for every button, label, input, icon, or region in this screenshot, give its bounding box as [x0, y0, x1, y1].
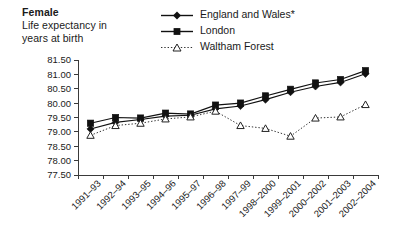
chart-container: Female Life expectancy in years at birth…: [0, 0, 403, 227]
y-axis-tick-label: 78.50: [47, 141, 71, 152]
y-axis-tick-label: 79.50: [47, 112, 71, 123]
data-point-marker: [87, 132, 94, 139]
data-point-marker: [87, 120, 93, 126]
y-axis-tick-label: 81.00: [47, 69, 71, 80]
data-point-marker: [237, 122, 244, 129]
data-point-marker: [237, 100, 243, 106]
y-axis-tick-label: 78.00: [47, 155, 71, 166]
y-axis-tick-label: 80.00: [47, 98, 71, 109]
series-open-triangle: [87, 101, 369, 139]
y-axis-tick-label: 79.00: [47, 126, 71, 137]
series-filled-square: [87, 67, 368, 126]
data-point-marker: [362, 67, 368, 73]
data-point-marker: [262, 93, 268, 99]
series-line: [91, 71, 366, 124]
series-filled-diamond: [87, 70, 369, 132]
data-point-marker: [337, 76, 343, 82]
y-axis-tick-label: 77.50: [47, 169, 71, 180]
data-point-marker: [312, 80, 318, 86]
plot-area: 81.5081.0080.5080.0079.5079.0078.5078.00…: [0, 0, 403, 227]
y-axis-tick-label: 81.50: [47, 54, 71, 65]
data-point-marker: [362, 101, 369, 108]
data-point-marker: [287, 86, 293, 92]
data-point-marker: [112, 114, 118, 120]
y-axis-tick-label: 80.50: [47, 83, 71, 94]
